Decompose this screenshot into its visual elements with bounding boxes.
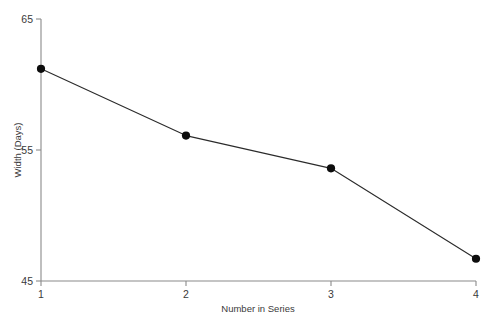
line-chart: 65 55 45 1 2 3 4 Number in Series Width … [0, 0, 492, 325]
y-tick-label-mid: 55 [21, 144, 33, 156]
x-tick-label-1: 1 [38, 288, 44, 300]
x-axis-title: Number in Series [221, 303, 295, 314]
x-tick-label-2: 2 [183, 288, 189, 300]
x-tick-label-3: 3 [328, 288, 334, 300]
data-point-marker [327, 164, 335, 172]
data-point-marker [472, 255, 480, 263]
y-axis-title: Width (Days) [12, 123, 23, 178]
chart-background [0, 0, 492, 325]
data-point-marker [182, 131, 190, 139]
chart-container: 65 55 45 1 2 3 4 Number in Series Width … [0, 0, 492, 325]
data-point-marker [37, 65, 45, 73]
x-tick-label-4: 4 [473, 288, 479, 300]
y-tick-label-bottom: 45 [21, 275, 33, 287]
y-tick-label-top: 65 [21, 13, 33, 25]
